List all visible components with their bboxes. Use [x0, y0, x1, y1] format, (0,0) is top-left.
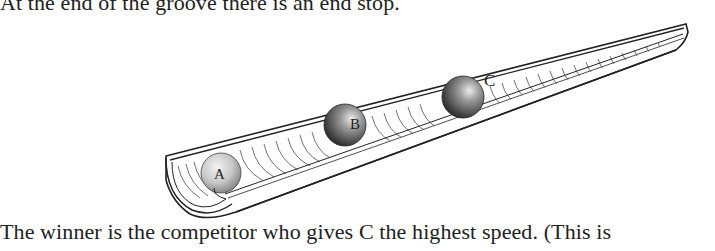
groove-diagram: A B C [0, 0, 715, 251]
ball-c-label: C [484, 71, 495, 90]
paragraph-line-bottom: The winner is the competitor who gives C… [0, 219, 611, 245]
ball-b: B [324, 104, 366, 146]
ball-b-label: B [350, 116, 360, 132]
ball-a-label: A [214, 166, 225, 182]
groove [166, 24, 688, 218]
